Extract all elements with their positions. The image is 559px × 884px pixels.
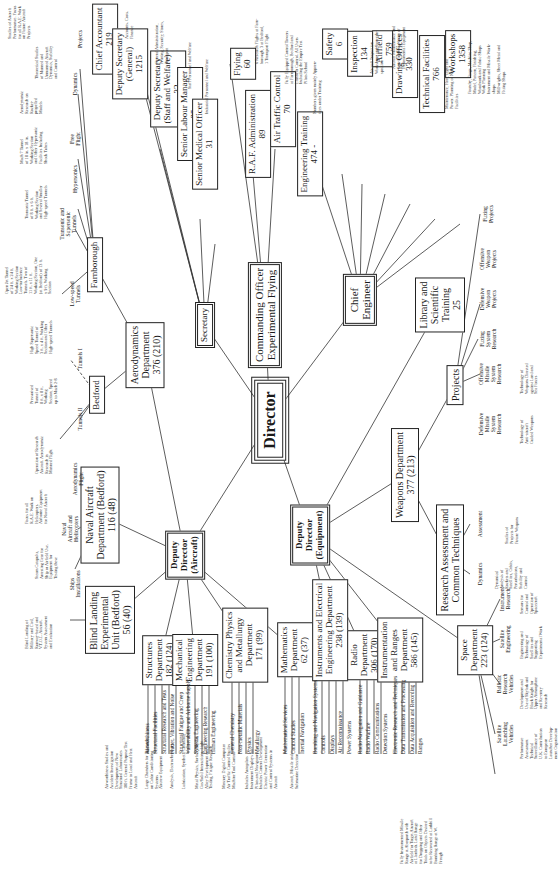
library-box[interactable]: Library and Scientific Training 25 <box>415 278 465 333</box>
naval-aircraft-box[interactable]: Naval Aircraft Department (Bedford) 116 … <box>81 466 120 563</box>
note-mach7: Mach 7 Tunnel of 18 in. x 18 in. Working… <box>20 127 49 164</box>
ra-line1: Research Assessment and <box>439 509 450 612</box>
label-ballistic: Ballistic Research Vehicles <box>496 674 514 695</box>
note-ranges: Fully Instrumented Missile Range at Aber… <box>400 818 443 864</box>
label-transonic: Transonic and Supersonic Tunnels <box>59 208 77 240</box>
engineering-training-box[interactable]: Engineering Training 474 - <box>297 112 323 197</box>
instrumentation-ranges-box[interactable]: Instrumentation and Ranges Department 58… <box>377 618 423 683</box>
note-technical: Maintenance, Heat, Light and Power. Plan… <box>445 59 459 109</box>
mech-line4: 191 (100) <box>205 638 215 682</box>
sublist-item: Ranges <box>416 676 424 754</box>
secretary-box[interactable]: Secretary <box>195 302 215 348</box>
sublist-item: Detection Systems <box>381 685 389 754</box>
bedford-label: Bedford <box>92 380 102 410</box>
naval-line2: Department (Bedford) <box>95 470 106 559</box>
note-skylark: Development and Use of Skylark and Black… <box>520 677 549 709</box>
flying-box[interactable]: Flying 60 <box>230 48 256 80</box>
dde-line3: (Equipment) <box>315 510 325 559</box>
note-open-jet: Open Jet Tunnel of 24 ft. x 24 ft. Worki… <box>5 257 53 294</box>
sublist-item: Structural Facilities <box>151 690 159 754</box>
sublist-item: Systems Engineering <box>192 679 200 754</box>
sublist-item: Bombing and Navigation Systems <box>311 680 319 754</box>
note-dynamical-analysis: Dynamical Analysis of Rockets and Satell… <box>495 560 529 589</box>
deputy-director-equipment-box[interactable]: Deputy Director (Equipment) <box>290 504 330 565</box>
label-fuzing-projects: Fuzing Projects <box>482 205 494 223</box>
naval-line1: Naval Aircraft <box>84 470 95 559</box>
raf-line2: 89 <box>258 94 268 174</box>
secretary-label: Secretary <box>200 308 210 342</box>
bedford-box[interactable]: Bedford <box>89 376 105 414</box>
dsg-line3: 1215 <box>135 33 145 96</box>
smo-line2: 31 <box>205 102 215 185</box>
sublist-item: Controls <box>319 680 327 754</box>
note-weapons-land-sea: Technology of Weapons Directed against L… <box>520 363 539 394</box>
label-offensive-missile: Offensive Missile System Research <box>478 363 503 385</box>
label-free-flight: Free Flight <box>69 132 81 145</box>
sublist-item: General Chemistry <box>228 704 236 754</box>
note-general-admin: General Administration, Printing, Securi… <box>155 21 169 64</box>
chemistry-physics-box[interactable]: Chemistry Physics and Metallurgy Departm… <box>222 607 268 682</box>
label-fuzing-research: Fuzing System Research <box>479 329 497 350</box>
note-control-towers: Fully Equipped Control Towers at Farnbor… <box>285 31 309 84</box>
note-staff-personnel: Staff Personnel and Welfare <box>188 42 193 89</box>
tf-line2: 766 <box>432 39 442 109</box>
label-aero-flight: Aerodynamics Flight <box>72 463 84 496</box>
chemistry-sublist: General Chemistry Non-metallic Materials… <box>228 704 262 754</box>
weapons-department-box[interactable]: Weapons Department 377 (213) <box>391 428 419 522</box>
note-accounts: Accounts. Costs. Finance <box>125 0 135 39</box>
sublist-item: Radio Navigation and Guidance <box>356 685 364 754</box>
note-blind-landing: Blind Landing of Military and Civil, Run… <box>25 616 54 649</box>
farnborough-box[interactable]: Farnborough <box>87 238 103 293</box>
dda-line3: (Aircraft) <box>190 536 200 573</box>
atc-line2: 70 <box>283 75 293 143</box>
instrumentation-sublist: Electronic Research and Techniques Data … <box>391 676 425 754</box>
et-line2: 474 - <box>310 116 320 193</box>
co-line1: Commanding Officer <box>253 268 265 362</box>
projects-box[interactable]: Projects <box>447 365 464 405</box>
technical-facilities-box[interactable]: Technical Facilities 766 <box>419 35 445 113</box>
aerodynamics-box[interactable]: Aerodynamics Department 376 (210) <box>126 322 165 388</box>
director-box[interactable]: Director <box>254 379 286 460</box>
label-hypersonics: Hypersonics <box>72 165 78 193</box>
sublist-item: Radio Communications <box>373 685 381 754</box>
sublist-item: Physics <box>245 704 253 754</box>
sublist-item: Flutter, Vibration and Noise <box>168 690 176 754</box>
projects-label: Projects <box>450 369 461 401</box>
sublist-item: Airworthiness <box>143 690 151 754</box>
note-research-flights: 6 Research Flights at Farn- borough, 3 a… <box>255 19 269 64</box>
safety-box[interactable]: Safety 6 <box>322 29 348 60</box>
sublist-item: Radio Warfare <box>364 685 372 754</box>
sublist-item: Inertial Navigation <box>298 705 306 754</box>
label-tunnels-1: Tunnels I <box>77 348 83 369</box>
mechanical-engineering-box[interactable]: Mechanical Engineering Department 191 (1… <box>172 634 218 686</box>
ir-line4: 586 (145) <box>410 622 420 679</box>
chief-engineer-box[interactable]: Chief Engineer <box>343 274 377 326</box>
space-box[interactable]: Space Department 223 (124) <box>457 625 493 675</box>
deputy-secretary-general-box[interactable]: Deputy Secretary (General) 1215 <box>112 29 148 100</box>
aero-line3: 376 (210) <box>151 326 162 384</box>
research-assessment-box[interactable]: Research Assessment and Common Technique… <box>436 505 464 616</box>
naval-line3: 116 (48) <box>106 470 117 559</box>
lib-line3: Training <box>440 282 451 329</box>
weapons-line1: Weapons Department <box>394 432 405 518</box>
deputy-director-aircraft-box[interactable]: Deputy Director (Aircraft) <box>165 530 205 579</box>
note-apprentices: Numbers given mainly Appren- tices under… <box>313 61 323 114</box>
aero-line1: Aerodynamics <box>129 326 140 384</box>
note-anti-aircraft: Technology of Anti-aircraft Guided Weapo… <box>520 415 534 444</box>
mechanical-sublist: Vulnerability and Airborne Supply System… <box>184 679 218 754</box>
blind-landing-box[interactable]: Blind Landing Experimental Unit (Bedford… <box>85 586 135 654</box>
raf-administration-box[interactable]: R.A.F. Administration 89 <box>245 90 271 178</box>
mathematics-box[interactable]: Mathematics Department 62 (37) <box>277 623 313 678</box>
label-satellite-launch: Satellite Launching Vehicles <box>496 722 514 746</box>
label-instrument-research: Instrument Research <box>499 587 511 611</box>
ce-line1: Chief <box>348 280 360 320</box>
instruments-electrical-box[interactable]: Instruments and Electrical Engineering D… <box>312 579 348 681</box>
lib-line4: 25 <box>451 282 462 329</box>
bl-line1: Blind Landing <box>88 590 99 650</box>
note-inspection: Aircraft Inspection Workshops and Stores… <box>370 31 384 74</box>
bl-line4: 56 (40) <box>121 590 132 650</box>
instruments-sublist: Bombing and Navigation Systems Controls … <box>311 680 353 754</box>
commanding-officer-box[interactable]: Commanding Officer Experimental Flying <box>248 262 282 368</box>
label-ships: Ships Installations <box>69 570 81 597</box>
